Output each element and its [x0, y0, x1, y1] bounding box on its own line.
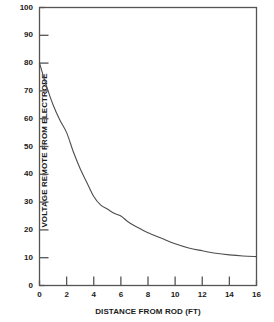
- plot-area: [0, 0, 274, 322]
- data-series-line: [40, 63, 257, 256]
- chart-figure: VOLTAGE REMOTE FROM ELECTRODE DISTANCE F…: [0, 0, 274, 322]
